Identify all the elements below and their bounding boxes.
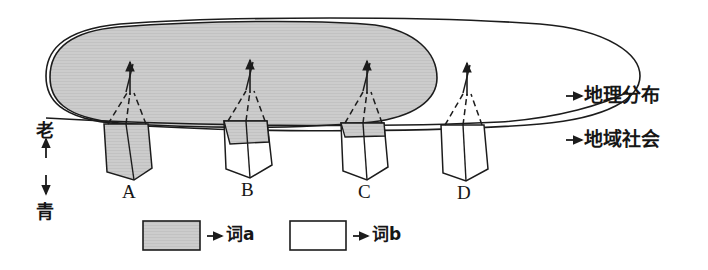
cone-label-a: A (122, 182, 136, 201)
right-label-geographic-distribution: 地理分布 (584, 86, 660, 105)
axis-label-young: 青 (36, 203, 54, 221)
diagram-canvas: 老 青 地理分布 地域社会 A B C D 词a 词b (0, 0, 708, 270)
legend-label-word-a: 词a (226, 226, 254, 243)
cone-label-c: C (358, 182, 371, 201)
legend-swatch-white (290, 221, 346, 250)
cone-label-b: B (241, 180, 254, 199)
right-label-regional-society: 地域社会 (584, 130, 660, 149)
axis-label-old: 老 (36, 122, 54, 140)
shaded-region-shape (50, 21, 437, 127)
legend-swatch-shaded (143, 221, 200, 250)
cone-label-d: D (457, 183, 471, 202)
legend-label-word-b: 词b (372, 226, 401, 243)
